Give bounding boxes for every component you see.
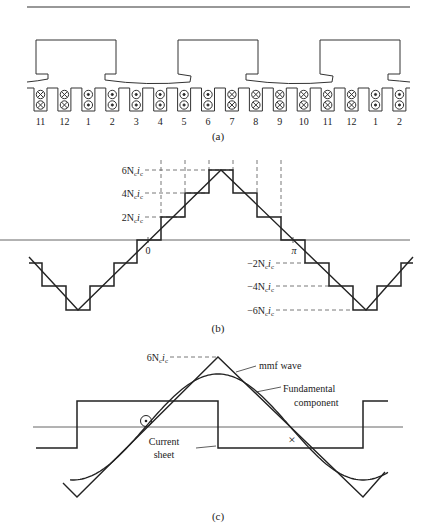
b-label-6ncic: 6Ncic xyxy=(122,165,143,178)
c-current-sheet xyxy=(36,401,388,448)
slot-number: 11 xyxy=(36,116,46,127)
pole-1 xyxy=(36,40,191,84)
b-label-neg2ncic: −2Ncic xyxy=(247,258,274,271)
c-sheet-label: sheet xyxy=(154,449,175,460)
slot-number: 2 xyxy=(397,116,402,127)
b-zero-label: 0 xyxy=(146,245,151,256)
pole-2 xyxy=(178,40,333,84)
part-c-current-sheet-plot xyxy=(33,357,403,497)
b-label-neg6ncic: −6Ncic xyxy=(247,305,274,318)
c-cross-symbol-into-page: × xyxy=(288,432,295,447)
b-label-2ncic: 2Ncic xyxy=(122,212,143,225)
slot-number: 1 xyxy=(86,116,91,127)
slot-number: 8 xyxy=(253,116,258,127)
c-current-sheet-arrow xyxy=(196,446,216,448)
slot-number: 4 xyxy=(158,116,163,127)
c-mmf-arrow xyxy=(236,366,256,372)
c-dot-center xyxy=(145,420,148,423)
stator-slots xyxy=(27,88,410,111)
c-mmf-wave-label: mmf wave xyxy=(259,360,302,371)
slot-number: 6 xyxy=(206,116,211,127)
slot-number: 1 xyxy=(373,116,378,127)
slot-number: 12 xyxy=(59,116,69,127)
c-peak-label: 6Ncic xyxy=(147,352,168,365)
slot-number: 12 xyxy=(347,116,357,127)
c-fundamental-arrow xyxy=(256,387,281,392)
c-current-label: Current xyxy=(149,436,180,447)
figure-canvas: 111212345678910111212 (a) 6Ncic 4Ncic 2N… xyxy=(0,0,434,528)
caption-a: (a) xyxy=(212,130,225,143)
slot-number: 2 xyxy=(110,116,115,127)
caption-c: (c) xyxy=(212,510,225,523)
slot-number: 7 xyxy=(229,116,234,127)
slot-number: 3 xyxy=(134,116,139,127)
c-component-label: component xyxy=(294,397,339,408)
part-b-mmf-plot xyxy=(0,160,413,310)
b-pi-label: π xyxy=(291,245,297,256)
b-label-4ncic: 4Ncic xyxy=(122,188,143,201)
pole-1-left-shoe xyxy=(27,74,48,82)
part-a-machine-cross-section xyxy=(27,7,410,111)
slot-number: 5 xyxy=(182,116,187,127)
c-fundamental-label: Fundamental xyxy=(283,383,335,394)
slot-number: 9 xyxy=(277,116,282,127)
caption-b: (b) xyxy=(212,322,225,335)
slot-number: 10 xyxy=(299,116,309,127)
slot-number: 11 xyxy=(323,116,333,127)
b-label-neg4ncic: −4Ncic xyxy=(247,281,274,294)
slot-number-labels: 111212345678910111212 xyxy=(36,116,402,127)
